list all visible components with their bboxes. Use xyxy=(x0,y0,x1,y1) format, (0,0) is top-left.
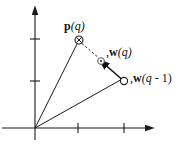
label-p-of-q-symbol: p xyxy=(64,19,71,33)
marker-wq-minus-1 xyxy=(120,77,127,84)
label-w-of-q-argument: (q) xyxy=(118,45,132,59)
line-origin-to-wq-minus-1 xyxy=(35,80,121,128)
label-p-of-q: p(q) xyxy=(64,20,85,32)
line-origin-to-pq xyxy=(35,44,77,128)
label-w-of-q-minus-1: ,w(q - 1) xyxy=(130,72,172,84)
label-w-of-q-symbol: w xyxy=(109,45,118,59)
marker-pq xyxy=(75,36,83,44)
marker-wq xyxy=(98,58,105,65)
label-w-of-q-minus-1-tail: - 1) xyxy=(152,71,172,85)
label-w-of-q-minus-1-symbol: w xyxy=(133,71,142,85)
label-w-of-q-minus-1-argument: (q xyxy=(142,71,152,85)
label-w-of-q: ,w(q) xyxy=(106,46,132,58)
dashed-line-pq-to-wq xyxy=(82,44,99,58)
vector-diagram-figure: p(q) ,w(q) ,w(q - 1) xyxy=(0,0,182,154)
update-arrow xyxy=(106,66,122,80)
label-p-of-q-argument: (q) xyxy=(71,19,85,33)
